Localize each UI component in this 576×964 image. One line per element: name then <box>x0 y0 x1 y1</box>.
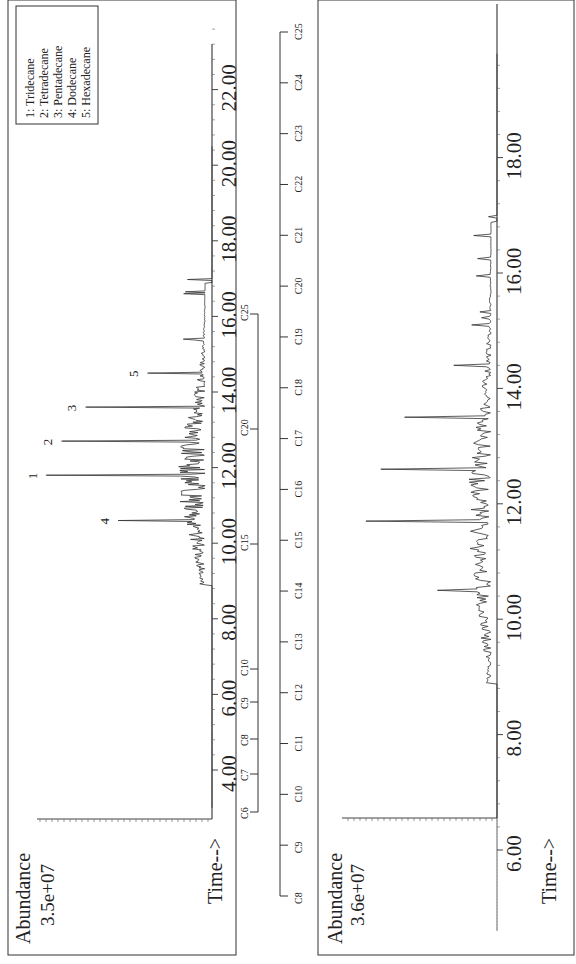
peak-label: 2 <box>40 439 55 446</box>
carbon-label: C10 <box>293 786 304 803</box>
x-tick-label: 4.00 <box>217 755 241 792</box>
carbon-label: C15 <box>239 534 250 551</box>
x-tick-label: 12.00 <box>502 479 526 526</box>
x-tick-label: 14.00 <box>502 363 526 410</box>
lower-time-label: Time--> <box>538 838 560 904</box>
lower-chromatogram-trace <box>366 54 497 931</box>
carbon-label: C13 <box>293 633 304 650</box>
carbon-label: C10 <box>239 659 250 676</box>
rotated-figure: Abundance 3.5e+07 Time--> 4.006.008.0010… <box>0 0 576 964</box>
upper-panel: Abundance 3.5e+07 Time--> 4.006.008.0010… <box>8 0 241 955</box>
carbon-label: C15 <box>293 532 304 549</box>
upper-panel-frame <box>8 0 236 955</box>
upper-ymax-label: 3.5e+07 <box>37 864 58 926</box>
chromatogram-figure: Abundance 3.5e+07 Time--> 4.006.008.0010… <box>0 0 576 964</box>
carbon-label: C18 <box>293 379 304 396</box>
x-tick-label: 16.00 <box>217 291 241 338</box>
carbon-label: C21 <box>293 227 304 244</box>
upper-abundance-label: Abundance <box>12 853 34 944</box>
carbon-label: C11 <box>293 735 304 751</box>
x-tick-label: 8.00 <box>502 720 526 757</box>
x-tick-label: 12.00 <box>217 442 241 489</box>
upper-peak-labels: 41235 <box>25 371 148 525</box>
x-tick-label: 22.00 <box>217 64 241 111</box>
carbon-label: C25 <box>293 23 304 40</box>
legend-item-1: 1: Tridecane <box>23 58 37 118</box>
upper-carbon-scale: C6C7C8C9C10C15C20C25 <box>239 304 258 819</box>
x-tick-label: 16.00 <box>502 248 526 295</box>
x-tick-label: 14.00 <box>217 367 241 414</box>
carbon-label: C8 <box>293 892 304 904</box>
middle-carbon-scale: C8C9C10C11C12C13C14C15C16C17C18C19C20C21… <box>280 23 304 904</box>
carbon-label: C14 <box>293 582 304 599</box>
carbon-label: C9 <box>239 697 250 709</box>
carbon-label: C22 <box>293 176 304 193</box>
legend-item-4: 4: Dodecane <box>65 58 79 118</box>
upper-time-label: Time--> <box>204 838 226 904</box>
lower-abundance-label: Abundance <box>324 853 346 944</box>
carbon-label: C24 <box>293 74 304 91</box>
legend-item-3: 3: Pentadecane <box>51 46 65 118</box>
lower-x-ticks: 6.008.0010.0012.0014.0016.0018.00 <box>497 65 526 872</box>
x-tick-label: 6.00 <box>217 680 241 717</box>
carbon-label: C25 <box>239 304 250 321</box>
x-tick-label: 20.00 <box>217 140 241 187</box>
legend-item-2: 2: Tetradecane <box>37 48 51 118</box>
carbon-label: C19 <box>293 328 304 345</box>
x-tick-label: 18.00 <box>502 132 526 179</box>
x-tick-label: 6.00 <box>502 835 526 872</box>
legend-item-5: 5: Hexadecane <box>79 47 93 118</box>
peak-label: 3 <box>64 405 79 412</box>
carbon-label: C9 <box>293 842 304 854</box>
peak-label: 5 <box>126 371 141 378</box>
lower-panel-frame <box>318 0 574 955</box>
peak-label: 4 <box>97 518 112 525</box>
carbon-label: C20 <box>293 277 304 294</box>
carbon-label: C17 <box>293 430 304 447</box>
carbon-label: C6 <box>239 807 250 819</box>
upper-chromatogram-trace <box>47 146 212 808</box>
lower-ymax-label: 3.6e+07 <box>347 864 368 926</box>
carbon-label: C20 <box>239 419 250 436</box>
lower-panel: Abundance 3.6e+07 Time--> 6.008.0010.001… <box>318 0 574 955</box>
x-tick-label: 8.00 <box>217 604 241 641</box>
legend: 1: Tridecane 2: Tetradecane 3: Pentadeca… <box>16 6 98 124</box>
x-tick-label: 18.00 <box>217 216 241 263</box>
carbon-label: C23 <box>293 125 304 142</box>
carbon-label: C12 <box>293 684 304 701</box>
x-tick-label: 10.00 <box>502 594 526 641</box>
upper-x-ticks: 4.006.008.0010.0012.0014.0016.0018.0020.… <box>212 29 241 792</box>
x-tick-label: 10.00 <box>217 518 241 565</box>
carbon-label: C7 <box>239 769 250 781</box>
peak-label: 1 <box>25 473 40 480</box>
carbon-label: C8 <box>239 734 250 746</box>
carbon-label: C16 <box>293 481 304 498</box>
